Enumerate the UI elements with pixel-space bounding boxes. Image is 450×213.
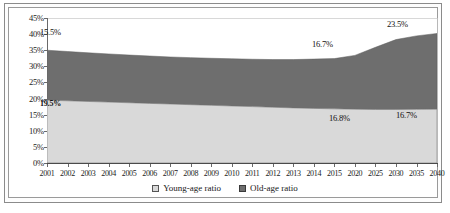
y-tick-label-45: 45% (0, 14, 44, 23)
x-axis-line (47, 163, 438, 164)
x-tick-2025 (375, 164, 376, 167)
x-tick-2015 (334, 164, 335, 167)
y-tick-45 (44, 18, 47, 19)
legend-item-young-age[interactable]: Young-age ratio (152, 183, 221, 193)
stacked-area-plot (47, 18, 437, 163)
legend-swatch-icon-young (152, 185, 159, 192)
y-tick-35 (44, 50, 47, 51)
x-tick-2013 (293, 164, 294, 167)
legend-swatch-icon-old (239, 185, 246, 192)
y-tick-label-40: 40% (0, 30, 44, 39)
old-age-area (47, 33, 437, 109)
x-tick-2007 (170, 164, 171, 167)
x-tick-2004 (109, 164, 110, 167)
y-tick-25 (44, 82, 47, 83)
y-tick-label-25: 25% (0, 78, 44, 87)
x-tick-2001 (47, 164, 48, 167)
y-tick-30 (44, 66, 47, 67)
y-tick-label-5: 5% (0, 143, 44, 152)
chart-legend: Young-age ratio Old-age ratio (0, 183, 450, 193)
legend-item-old-age[interactable]: Old-age ratio (239, 183, 298, 193)
x-tick-2002 (68, 164, 69, 167)
x-tick-label-2040: 2040 (422, 169, 450, 179)
data-label-young-2015: 16.8% (329, 113, 350, 123)
y-tick-5 (44, 147, 47, 148)
legend-label-young: Young-age ratio (163, 183, 221, 193)
y-tick-10 (44, 131, 47, 132)
x-tick-2035 (417, 164, 418, 167)
chart-screenshot: 45% 40% 35% 30% 25% 20% 15% 10% 5% 0% 20… (0, 0, 450, 213)
x-tick-2008 (191, 164, 192, 167)
y-tick-label-30: 30% (0, 62, 44, 71)
y-tick-label-10: 10% (0, 127, 44, 136)
x-tick-2010 (232, 164, 233, 167)
x-tick-2020 (355, 164, 356, 167)
y-tick-label-15: 15% (0, 111, 44, 120)
x-tick-2030 (396, 164, 397, 167)
x-tick-2040 (437, 164, 438, 167)
x-tick-2006 (150, 164, 151, 167)
x-tick-2003 (88, 164, 89, 167)
x-tick-2009 (211, 164, 212, 167)
y-tick-0 (44, 163, 47, 164)
x-tick-2012 (273, 164, 274, 167)
y-tick-label-0: 0% (0, 159, 44, 168)
y-axis-labels: 45% 40% 35% 30% 25% 20% 15% 10% 5% 0% (0, 0, 44, 213)
plot-border-right (437, 18, 438, 164)
y-tick-label-20: 20% (0, 95, 44, 104)
x-tick-2014 (314, 164, 315, 167)
data-label-old-2040: 23.5% (387, 19, 408, 29)
y-tick-15 (44, 115, 47, 116)
data-label-old-2025: 16.7% (312, 39, 333, 49)
data-label-old-2001: 15.5% (40, 27, 61, 37)
y-tick-label-35: 35% (0, 46, 44, 55)
data-label-young-2040: 16.7% (396, 110, 417, 120)
legend-label-old: Old-age ratio (250, 183, 298, 193)
data-label-young-2001: 19.5% (40, 99, 61, 108)
x-tick-2005 (129, 164, 130, 167)
x-tick-2011 (252, 164, 253, 167)
young-age-area (47, 100, 437, 163)
